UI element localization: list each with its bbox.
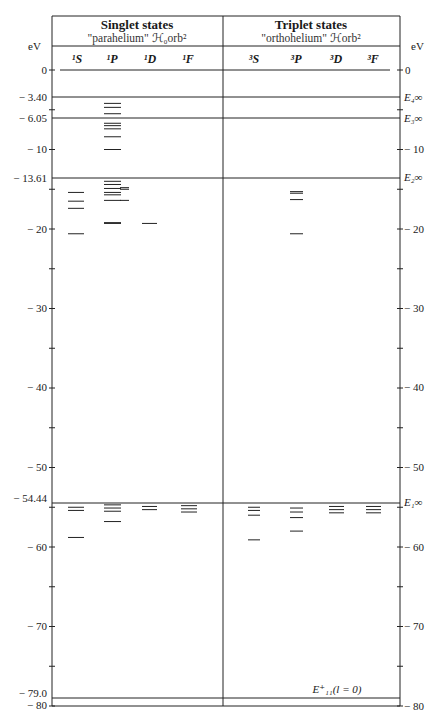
ground-state-label: E⁺₁₁(l = 0) — [312, 683, 362, 696]
unit-right: eV — [411, 40, 424, 52]
col-1F: ¹F — [182, 52, 194, 66]
triplet-title: Triplet states — [275, 17, 347, 32]
col-1P: ¹P — [107, 52, 119, 66]
svg-text:− 40: − 40 — [27, 381, 47, 393]
col-3P: ³P — [291, 52, 303, 66]
energy-level-diagram: Singlet states "parahelium" ℋ₀orb² Tripl… — [0, 0, 434, 712]
svg-text:− 80: − 80 — [404, 700, 424, 712]
singlet-title: Singlet states — [101, 17, 174, 32]
svg-text:− 54.44: − 54.44 — [13, 492, 47, 504]
svg-text:− 70: − 70 — [27, 620, 47, 632]
svg-text:− 3.40: − 3.40 — [19, 91, 48, 103]
singlet-subtitle: "parahelium" ℋ₀orb² — [88, 32, 187, 45]
left-axis-labels: 0 − 3.40 − 6.05 − 10 − 13.61 − 20 − 30 −… — [13, 64, 47, 711]
energy-levels — [68, 103, 381, 539]
col-3S: ³S — [249, 52, 260, 66]
svg-text:− 60: − 60 — [27, 541, 47, 553]
frame — [52, 16, 400, 706]
svg-text:− 10: − 10 — [404, 143, 424, 155]
axis-ticks — [49, 70, 403, 706]
col-1D: ¹D — [144, 52, 157, 66]
threshold-lines — [52, 70, 400, 706]
svg-text:E₁∞: E₁∞ — [403, 496, 423, 508]
unit-left: eV — [28, 40, 41, 52]
svg-text:− 79.0: − 79.0 — [19, 687, 48, 699]
svg-text:E₄∞: E₄∞ — [403, 91, 423, 103]
svg-text:0: 0 — [42, 64, 48, 76]
col-1S: ¹S — [72, 52, 83, 66]
svg-text:− 80: − 80 — [27, 699, 47, 711]
triplet-subtitle: "orthohelium" ℋorb² — [261, 32, 361, 44]
svg-text:− 60: − 60 — [404, 541, 424, 553]
svg-text:− 30: − 30 — [27, 302, 47, 314]
svg-text:− 20: − 20 — [404, 223, 424, 235]
svg-text:− 30: − 30 — [404, 302, 424, 314]
svg-text:− 20: − 20 — [27, 223, 47, 235]
svg-text:− 70: − 70 — [404, 620, 424, 632]
col-3D: ³D — [330, 52, 343, 66]
svg-text:E₂∞: E₂∞ — [403, 171, 423, 183]
svg-text:− 50: − 50 — [404, 461, 424, 473]
svg-text:E₃∞: E₃∞ — [403, 112, 423, 124]
svg-text:− 13.61: − 13.61 — [13, 172, 47, 184]
right-axis-labels: 0 E₄∞ E₃∞ − 10 E₂∞ − 20 − 30 − 40 − 50 E… — [403, 64, 424, 712]
svg-text:− 10: − 10 — [27, 143, 47, 155]
col-3F: ³F — [367, 52, 379, 66]
svg-text:− 50: − 50 — [27, 461, 47, 473]
svg-text:0: 0 — [405, 64, 411, 76]
svg-text:− 40: − 40 — [404, 381, 424, 393]
svg-text:− 6.05: − 6.05 — [19, 112, 48, 124]
